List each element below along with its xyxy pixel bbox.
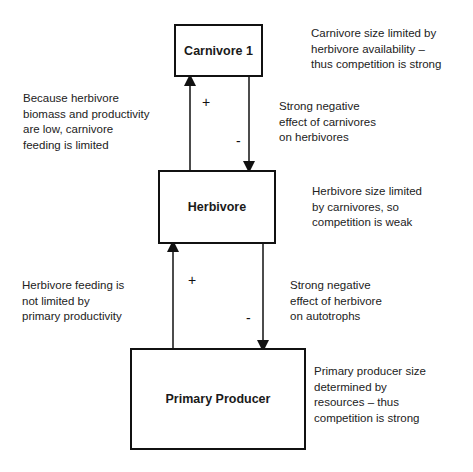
herbivore-node: Herbivore bbox=[158, 170, 276, 244]
carnivore-effect-note: Strong negative effect of carnivores on … bbox=[279, 99, 376, 146]
minus-sign-lower: - bbox=[246, 310, 251, 326]
primary-producer-node: Primary Producer bbox=[130, 348, 306, 450]
carnivore-node: Carnivore 1 bbox=[174, 24, 263, 77]
herbivore-feeding-note: Herbivore feeding is not limited by prim… bbox=[22, 278, 124, 325]
plus-sign-lower: + bbox=[188, 272, 196, 288]
producer-size-note: Primary producer size determined by reso… bbox=[314, 364, 426, 426]
carnivore-size-note: Carnivore size limited by herbivore avai… bbox=[311, 26, 441, 73]
carnivore-feeding-note: Because herbivore biomass and productivi… bbox=[23, 91, 150, 153]
herbivore-label: Herbivore bbox=[188, 200, 246, 214]
minus-sign-upper: - bbox=[236, 133, 241, 149]
herbivore-size-note: Herbivore size limited by carnivores, so… bbox=[312, 184, 422, 231]
plus-sign-upper: + bbox=[202, 94, 210, 110]
primary-producer-label: Primary Producer bbox=[166, 392, 271, 406]
herbivore-effect-note: Strong negative effect of herbivore on a… bbox=[290, 278, 382, 325]
carnivore-label: Carnivore 1 bbox=[184, 44, 253, 58]
